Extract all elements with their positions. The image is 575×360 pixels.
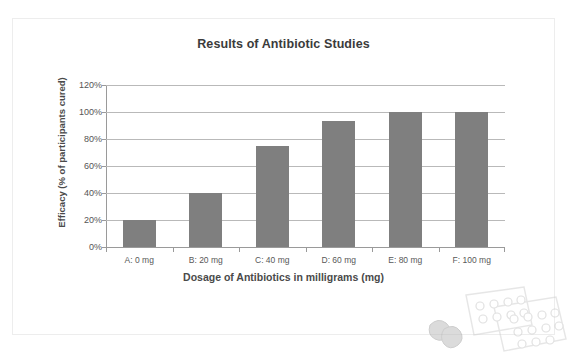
clipped-header-text	[105, 0, 435, 4]
x-axis-tick-mark	[372, 248, 373, 252]
x-axis-tick-mark	[504, 248, 505, 252]
y-axis-tick-label: 80%	[58, 134, 102, 144]
x-axis-tick-mark	[306, 248, 307, 252]
y-axis-tick-label: 60%	[58, 161, 102, 171]
y-axis-tick-label: 20%	[58, 215, 102, 225]
y-axis-tick-label: 120%	[58, 80, 102, 90]
bar	[322, 121, 355, 247]
bar-series	[106, 85, 505, 247]
y-axis-tick-label: 40%	[58, 188, 102, 198]
bar	[189, 193, 222, 247]
x-axis-tick-label: F: 100 mg	[453, 255, 491, 265]
x-axis-tick-marks	[106, 248, 505, 253]
bar	[455, 112, 488, 247]
y-axis-tick-label: 100%	[58, 107, 102, 117]
bar	[123, 220, 156, 247]
y-axis-tick-labels: 0%20%40%60%80%100%120%	[54, 85, 102, 247]
x-axis-tick-mark	[239, 248, 240, 252]
chart-container: Results of Antibiotic Studies Efficacy (…	[12, 18, 555, 335]
x-axis-tick-label: A: 0 mg	[125, 255, 154, 265]
plot-area	[106, 85, 505, 247]
x-axis-tick-label: E: 80 mg	[388, 255, 422, 265]
x-axis-tick-label: C: 40 mg	[255, 255, 290, 265]
pill-blister-packs-icon	[428, 281, 575, 360]
x-axis-tick-label: B: 20 mg	[189, 255, 223, 265]
y-axis-tick-label: 0%	[58, 242, 102, 252]
x-axis-tick-mark	[106, 248, 107, 252]
bar	[389, 112, 422, 247]
x-axis-tick-label: D: 60 mg	[322, 255, 357, 265]
x-axis-tick-mark	[439, 248, 440, 252]
x-axis-title: Dosage of Antibiotics in milligrams (mg)	[13, 271, 554, 283]
x-axis-tick-mark	[173, 248, 174, 252]
x-axis-tick-labels: A: 0 mgB: 20 mgC: 40 mgD: 60 mgE: 80 mgF…	[106, 255, 505, 269]
bar	[256, 146, 289, 247]
chart-title: Results of Antibiotic Studies	[13, 37, 554, 51]
